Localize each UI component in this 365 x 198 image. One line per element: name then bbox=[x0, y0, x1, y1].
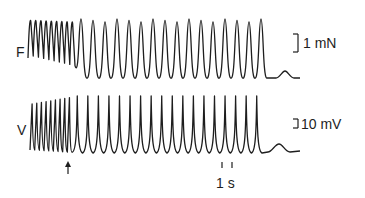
force-scale-bar bbox=[293, 34, 298, 52]
force-trace-label: F bbox=[16, 45, 25, 59]
voltage-trace bbox=[30, 96, 300, 153]
voltage-trace-label: V bbox=[17, 123, 26, 137]
time-scale-bar bbox=[222, 162, 232, 168]
arrow-up-icon bbox=[65, 161, 71, 174]
voltage-scale-label: 10 mV bbox=[301, 117, 341, 131]
physiology-figure bbox=[0, 0, 365, 198]
voltage-scale-bar bbox=[293, 119, 298, 128]
time-scale-label: 1 s bbox=[216, 176, 235, 190]
force-scale-label: 1 mN bbox=[303, 36, 336, 50]
force-trace bbox=[28, 19, 300, 78]
